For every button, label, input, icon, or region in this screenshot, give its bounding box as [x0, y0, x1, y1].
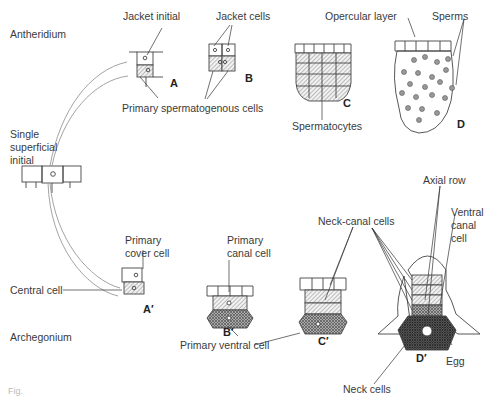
axial-row-label: Axial row: [423, 174, 466, 186]
stage-b: [209, 44, 235, 71]
primary-canal-label-1: Primary: [227, 234, 263, 246]
ventral-canal-label-3: cell: [451, 232, 467, 244]
egg-label: Egg: [446, 355, 465, 367]
stage-a-prime: [122, 268, 144, 294]
central-cell-label: Central cell: [10, 284, 63, 296]
stage-letter-d-prime: D′: [416, 352, 427, 364]
single-initial-label-3: initial: [10, 154, 34, 166]
stage-b-prime: [207, 286, 253, 328]
stage-letter-b: B: [245, 72, 253, 84]
primary-spermatogenous-label: Primary spermatogenous cells: [122, 102, 263, 114]
archegonium-label: Archegonium: [10, 331, 72, 343]
stage-letter-b-prime: B′: [223, 326, 234, 338]
stage-letter-c: C: [343, 97, 351, 109]
opercular-layer-label: Opercular layer: [325, 10, 397, 22]
primary-cover-label-2: cover cell: [125, 247, 169, 259]
jacket-initial-label: Jacket initial: [123, 10, 180, 22]
stage-a: [129, 52, 163, 87]
neck-canal-cells-label: Neck-canal cells: [318, 215, 394, 227]
ventral-canal-label-2: canal: [451, 219, 476, 231]
single-initial-label-1: Single: [10, 128, 39, 140]
ventral-canal-label-1: Ventral: [451, 206, 484, 218]
primary-ventral-label: Primary ventral cell: [180, 339, 269, 351]
stage-c: [295, 44, 351, 101]
stage-letter-c-prime: C′: [318, 335, 329, 347]
spermatocytes-label: Spermatocytes: [292, 120, 362, 132]
jacket-cells-label: Jacket cells: [216, 10, 270, 22]
stage-letter-a: A: [170, 77, 178, 89]
stage-letter-d: D: [457, 118, 465, 130]
antheridium-label: Antheridium: [10, 28, 66, 40]
neck-cells-label: Neck cells: [343, 383, 391, 395]
sperms-dots: [400, 55, 455, 123]
primary-cover-label-1: Primary: [125, 234, 161, 246]
figure-caption: Fig.: [8, 386, 23, 396]
sperms-label: Sperms: [432, 10, 468, 22]
stage-letter-a-prime: A′: [143, 303, 154, 315]
single-initial-label-2: superficial: [10, 141, 57, 153]
stage-c-prime: [299, 278, 347, 334]
primary-canal-label-2: canal cell: [227, 247, 271, 259]
single-superficial-initial: [22, 166, 81, 193]
